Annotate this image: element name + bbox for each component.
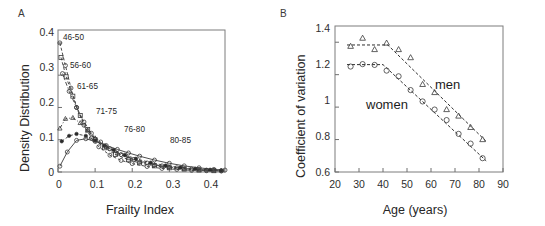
data-point-marker — [348, 64, 353, 69]
data-point-marker — [179, 166, 182, 169]
data-point-marker — [360, 35, 366, 40]
data-point-marker — [468, 124, 474, 129]
data-point-marker — [60, 72, 64, 76]
panel-a-plot — [0, 0, 272, 226]
data-point-marker — [372, 47, 378, 52]
data-point-marker — [444, 117, 449, 122]
panel-a-frame — [58, 30, 225, 172]
data-point-marker — [220, 169, 223, 172]
data-point-marker — [396, 47, 402, 52]
data-point-marker — [67, 134, 70, 137]
data-point-marker — [149, 161, 152, 164]
panel-b-plot — [272, 0, 545, 226]
data-point-marker — [60, 140, 63, 143]
data-point-marker — [432, 90, 438, 95]
data-point-marker — [468, 141, 473, 146]
data-point-marker — [384, 40, 390, 45]
data-point-marker — [480, 137, 486, 142]
data-point-marker — [164, 164, 167, 167]
data-point-marker — [408, 55, 414, 60]
data-point-marker — [444, 107, 450, 112]
data-point-marker — [432, 107, 437, 112]
panel-a-series-line-56-60 — [61, 57, 214, 170]
data-point-marker — [134, 157, 137, 160]
panel-a-series-line-46-50 — [60, 43, 221, 171]
panel-b-fit-line-men — [347, 45, 486, 141]
data-point-marker — [420, 81, 426, 86]
data-point-marker — [384, 68, 389, 73]
panel-a: A Density Distribution Frailty Index 0 0… — [0, 0, 272, 226]
data-point-marker — [408, 87, 413, 92]
data-point-marker — [480, 156, 485, 161]
data-point-marker — [348, 43, 354, 48]
figure-container: A Density Distribution Frailty Index 0 0… — [0, 0, 545, 226]
data-point-marker — [75, 132, 78, 135]
data-point-marker — [123, 153, 126, 156]
panel-b: B Coefficient of variation Age (years) 0… — [272, 0, 545, 226]
data-point-marker — [396, 74, 401, 79]
panel-b-fit-line-women — [347, 65, 486, 161]
data-point-marker — [456, 113, 462, 118]
panel-b-frame — [335, 26, 503, 172]
data-point-marker — [119, 158, 123, 162]
